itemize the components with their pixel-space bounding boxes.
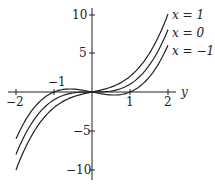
y-tick-label: −10 bbox=[66, 163, 91, 177]
x-tick-label: 2 bbox=[164, 95, 172, 109]
x-tick-label: 1 bbox=[126, 95, 134, 109]
axis-label-y: y bbox=[180, 85, 188, 99]
chart: −2 −1 1 2 10 5 −5 −10 y x = 1 x = 0 x = … bbox=[0, 0, 215, 187]
legend-label-x-1: x = 1 bbox=[172, 8, 204, 22]
y-tick-label: −5 bbox=[73, 124, 91, 138]
x-tick-label: −1 bbox=[48, 75, 66, 89]
y-tick-label: 10 bbox=[72, 8, 87, 22]
y-tick-label: 5 bbox=[79, 46, 87, 60]
x-tick-label: −2 bbox=[6, 95, 24, 109]
legend-label-x-0: x = 0 bbox=[172, 26, 204, 40]
legend-label-x-neg1: x = −1 bbox=[172, 44, 214, 58]
